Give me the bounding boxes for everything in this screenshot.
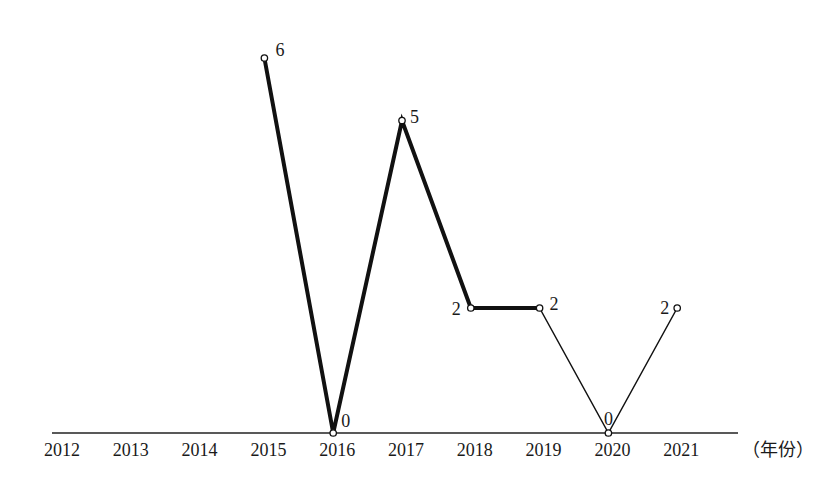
x-tick-label: 2014 [182,440,218,460]
data-point-marker [674,305,680,311]
data-point-marker [468,305,474,311]
x-tick-label: 2019 [526,440,562,460]
data-value-label: 6 [275,40,284,60]
data-value-label: 2 [660,298,669,318]
x-tick-label: 2015 [250,440,286,460]
data-value-label: 2 [452,299,461,319]
series-line-solid-thick [264,58,539,433]
data-value-labels: 6052202 [275,40,669,431]
x-tick-label: 2021 [663,440,699,460]
x-axis-unit-label: （年份） [742,439,814,460]
data-value-label: 0 [341,411,350,431]
data-value-label: 2 [550,294,559,314]
x-tick-label: 2012 [44,440,80,460]
line-chart: 2012201320142015201620172018201920202021… [0,0,829,494]
x-tick-label: 2020 [594,440,630,460]
data-value-label: 5 [410,107,419,127]
x-tick-labels: 2012201320142015201620172018201920202021 [44,440,699,460]
x-tick-label: 2017 [388,440,424,460]
series-lines [264,58,677,433]
x-tick-label: 2013 [113,440,149,460]
x-tick-label: 2018 [457,440,493,460]
data-point-marker [605,430,611,436]
data-value-label: 0 [604,409,613,429]
data-point-marker [330,430,336,436]
x-tick-label: 2016 [319,440,355,460]
data-point-marker [536,305,542,311]
data-point-marker [261,55,267,61]
data-point-marker [399,117,405,123]
